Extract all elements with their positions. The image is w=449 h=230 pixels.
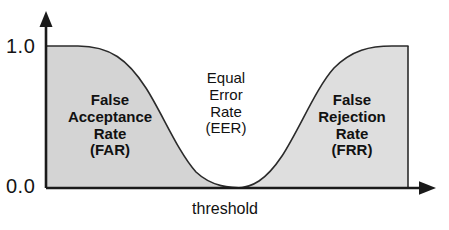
far-label-line-4: (FAR)	[50, 142, 170, 159]
eer-label-line-3: Rate	[188, 104, 264, 121]
frr-label-line-2: Rejection	[292, 109, 412, 126]
far-label-line-2: Acceptance	[50, 109, 170, 126]
eer-label-line-1: Equal	[188, 70, 264, 87]
eer-region-label: Equal Error Rate (EER)	[188, 70, 264, 137]
y-axis-arrowhead	[40, 11, 53, 27]
far-label-line-1: False	[50, 92, 170, 109]
far-frr-threshold-chart: 1.0 0.0 False Acceptance Rate (FAR) Equa…	[0, 0, 449, 230]
far-label-line-3: Rate	[50, 126, 170, 143]
frr-label-line-1: False	[292, 92, 412, 109]
x-axis-arrowhead	[419, 181, 436, 195]
eer-label-line-4: (EER)	[188, 120, 264, 137]
far-region-label: False Acceptance Rate (FAR)	[50, 92, 170, 159]
y-axis-tick-label-max: 1.0	[6, 36, 35, 56]
frr-region-label: False Rejection Rate (FRR)	[292, 92, 412, 159]
eer-label-line-2: Error	[188, 87, 264, 104]
y-axis-tick-label-min: 0.0	[6, 176, 35, 196]
x-axis-label: threshold	[160, 200, 290, 218]
frr-label-line-3: Rate	[292, 126, 412, 143]
frr-label-line-4: (FRR)	[292, 142, 412, 159]
